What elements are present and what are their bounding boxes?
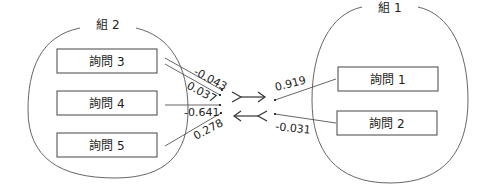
coef-q2: -0.031 [275,120,312,137]
canonical-arrows [232,92,267,121]
canonical-correlation-diagram: 組 2 詢問 3 詢問 4 詢問 5 組 1 詢問 1 詢問 2 -0.043 … [0,0,495,195]
group-1-outline [312,7,468,183]
group-2: 組 2 詢問 3 詢問 4 詢問 5 [28,18,188,178]
right-chevron [258,111,267,121]
question-5-label: 詢問 5 [89,138,124,153]
group-2-label: 組 2 [96,18,119,32]
group-1-label: 組 1 [378,1,401,15]
question-2-label: 詢問 2 [369,116,404,131]
question-1-label: 詢問 1 [370,72,405,87]
coef-q4: -0.641 [184,106,219,119]
left-chevron [232,92,241,102]
group-1: 組 1 詢問 1 詢問 2 [312,1,468,183]
question-3-label: 詢問 3 [89,54,124,69]
question-4-label: 詢問 4 [89,96,124,111]
